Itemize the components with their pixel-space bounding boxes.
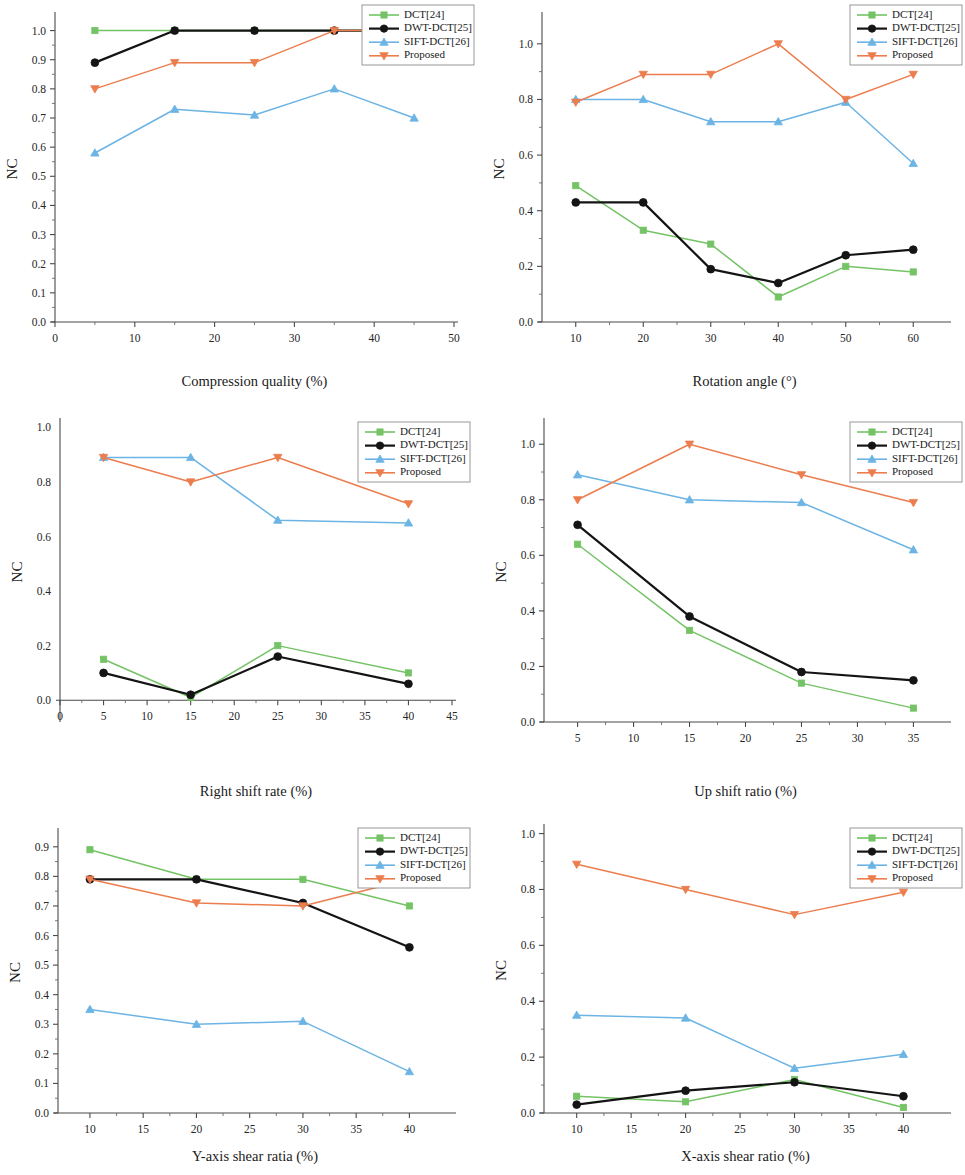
y-tick-label: 0.5 bbox=[35, 959, 50, 971]
x-tick-label: 45 bbox=[446, 710, 458, 722]
y-tick-label: 0.8 bbox=[519, 93, 534, 105]
x-tick-label: 35 bbox=[350, 1123, 362, 1135]
legend-label: DCT[24] bbox=[892, 425, 932, 437]
legend-label: Proposed bbox=[892, 48, 933, 60]
y-tick-label: 0.0 bbox=[519, 316, 534, 328]
x-tick-label: 20 bbox=[638, 332, 650, 344]
x-tick-label: 30 bbox=[316, 710, 328, 722]
y-tick-label: 0.2 bbox=[37, 640, 52, 652]
legend-label: Proposed bbox=[400, 871, 441, 883]
legend-label: SIFT-DCT[26] bbox=[892, 452, 958, 464]
x-tick-label: 40 bbox=[404, 1123, 416, 1135]
figure-grid: 0.00.10.20.30.40.50.60.70.80.91.00102030… bbox=[0, 0, 965, 1175]
y-tick-label: 0.5 bbox=[32, 170, 47, 182]
x-axis-title: Up shift ratio (%) bbox=[694, 783, 797, 800]
x-axis: 5101520253035 bbox=[540, 722, 951, 744]
x-axis-title: Y-axis shear ratia (%) bbox=[192, 1148, 318, 1165]
chart-panel-compression-quality: 0.00.10.20.30.40.50.60.70.80.91.00102030… bbox=[0, 0, 482, 400]
y-tick-label: 0.2 bbox=[521, 660, 536, 672]
legend-label: Proposed bbox=[892, 871, 933, 883]
y-tick-label: 0.0 bbox=[32, 316, 47, 328]
series-sift-dct-26- bbox=[91, 85, 419, 156]
y-tick-label: 0.4 bbox=[521, 995, 536, 1007]
chart-panel-right-shift-rate: 0.00.20.40.60.81.0051015202530354045Righ… bbox=[0, 400, 482, 810]
chart-panel-y-axis-shear-ratio: 0.00.10.20.30.40.50.60.70.80.91015202530… bbox=[0, 810, 482, 1175]
x-tick-label: 10 bbox=[129, 332, 141, 344]
legend-label: DCT[24] bbox=[400, 425, 440, 437]
y-tick-label: 0.1 bbox=[32, 287, 47, 299]
y-axis-title: NC bbox=[9, 562, 25, 583]
x-tick-label: 50 bbox=[448, 332, 460, 344]
y-axis: 0.00.20.40.60.81.0 bbox=[521, 824, 544, 1119]
y-tick-label: 0.2 bbox=[32, 258, 47, 270]
x-tick-label: 5 bbox=[575, 732, 581, 744]
legend-label: DWT-DCT[25] bbox=[892, 844, 960, 856]
legend: DCT[24]DWT-DCT[25]SIFT-DCT[26]Proposed bbox=[358, 828, 470, 888]
y-tick-label: 0.6 bbox=[35, 930, 50, 942]
y-axis-title: NC bbox=[491, 159, 507, 180]
legend-label: DCT[24] bbox=[892, 831, 932, 843]
chart-panel-up-shift-ratio: 0.00.20.40.60.81.05101520253035Up shift … bbox=[482, 400, 965, 810]
y-tick-label: 0.4 bbox=[37, 585, 52, 597]
y-tick-label: 1.0 bbox=[32, 25, 47, 37]
x-tick-label: 10 bbox=[84, 1123, 96, 1135]
chart-compression-quality: 0.00.10.20.30.40.50.60.70.80.91.00102030… bbox=[0, 0, 482, 400]
y-tick-label: 0.9 bbox=[32, 54, 47, 66]
x-tick-label: 10 bbox=[628, 732, 640, 744]
y-axis: 0.00.20.40.60.81.0 bbox=[521, 418, 544, 728]
y-tick-label: 0.6 bbox=[521, 939, 536, 951]
legend: DCT[24]DWT-DCT[25]SIFT-DCT[26]Proposed bbox=[362, 5, 474, 65]
legend-label: DCT[24] bbox=[404, 8, 444, 20]
y-tick-label: 0.7 bbox=[35, 900, 50, 912]
x-tick-label: 0 bbox=[57, 710, 63, 722]
y-tick-label: 0.0 bbox=[37, 694, 52, 706]
y-tick-label: 0.8 bbox=[35, 870, 50, 882]
series-dwt-dct-25- bbox=[574, 521, 918, 684]
legend-label: DWT-DCT[25] bbox=[400, 438, 468, 450]
y-axis: 0.00.20.40.60.81.0 bbox=[519, 12, 542, 328]
y-tick-label: 0.2 bbox=[521, 1051, 536, 1063]
chart-y-axis-shear-ratio: 0.00.10.20.30.40.50.60.70.80.91015202530… bbox=[0, 810, 482, 1175]
y-tick-label: 0.6 bbox=[32, 141, 47, 153]
x-axis-title: Compression quality (%) bbox=[182, 373, 328, 390]
y-tick-label: 0.8 bbox=[521, 883, 536, 895]
series-dwt-dct-25- bbox=[572, 198, 917, 286]
y-tick-label: 0.4 bbox=[35, 989, 50, 1001]
y-tick-label: 0.9 bbox=[35, 841, 50, 853]
y-tick-label: 0.2 bbox=[35, 1048, 50, 1060]
x-axis: 10152025303540 bbox=[54, 1113, 456, 1135]
series-sift-dct-26- bbox=[573, 471, 917, 553]
chart-panel-rotation-angle: 0.00.20.40.60.81.0102030405060Rotation a… bbox=[482, 0, 965, 400]
y-tick-label: 0.2 bbox=[519, 260, 534, 272]
y-tick-label: 0.0 bbox=[521, 1107, 536, 1119]
y-tick-label: 0.6 bbox=[519, 149, 534, 161]
chart-up-shift-ratio: 0.00.20.40.60.81.05101520253035Up shift … bbox=[482, 400, 965, 810]
y-tick-label: 0.4 bbox=[521, 605, 536, 617]
legend-label: Proposed bbox=[400, 465, 441, 477]
series-dct-24- bbox=[100, 643, 411, 701]
x-tick-label: 10 bbox=[141, 710, 153, 722]
x-tick-label: 35 bbox=[908, 732, 920, 744]
x-tick-label: 30 bbox=[705, 332, 717, 344]
legend: DCT[24]DWT-DCT[25]SIFT-DCT[26]Proposed bbox=[850, 5, 962, 65]
x-tick-label: 15 bbox=[185, 710, 197, 722]
x-axis-title: X-axis shear ratio (%) bbox=[681, 1148, 810, 1165]
series-sift-dct-26- bbox=[86, 1005, 414, 1074]
x-tick-label: 20 bbox=[228, 710, 240, 722]
y-tick-label: 0.3 bbox=[35, 1018, 50, 1030]
x-tick-label: 10 bbox=[571, 1123, 583, 1135]
y-tick-label: 0.0 bbox=[35, 1107, 50, 1119]
x-axis-title: Rotation angle (°) bbox=[692, 373, 796, 390]
legend: DCT[24]DWT-DCT[25]SIFT-DCT[26]Proposed bbox=[850, 828, 962, 888]
chart-rotation-angle: 0.00.20.40.60.81.0102030405060Rotation a… bbox=[482, 0, 965, 400]
series-sift-dct-26- bbox=[572, 95, 918, 166]
x-axis: 051015202530354045 bbox=[56, 700, 458, 722]
chart-right-shift-rate: 0.00.20.40.60.81.0051015202530354045Righ… bbox=[0, 400, 482, 810]
y-axis: 0.00.10.20.30.40.50.60.70.80.91.0 bbox=[32, 12, 55, 328]
y-tick-label: 0.6 bbox=[521, 549, 536, 561]
y-tick-label: 0.0 bbox=[521, 716, 536, 728]
x-axis: 01020304050 bbox=[51, 322, 460, 344]
series-dct-24- bbox=[573, 183, 917, 300]
x-tick-label: 25 bbox=[796, 732, 808, 744]
y-axis-title: NC bbox=[4, 159, 20, 180]
